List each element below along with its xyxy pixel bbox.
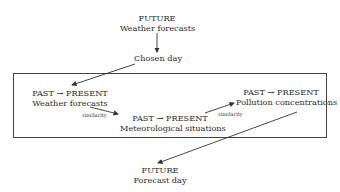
node-line1: PAST → PRESENT: [120, 113, 220, 123]
node-line1: FUTURE: [130, 165, 190, 175]
node-past-pollution-concentrations: PAST → PRESENT Pollution concentrations: [236, 87, 326, 107]
node-future-forecast-day: FUTURE Forecast day: [130, 165, 190, 185]
node-line1: FUTURE: [120, 13, 194, 23]
edge-label-similarity-1: similarity: [82, 112, 107, 118]
node-line2: Pollution concentrations: [236, 97, 326, 107]
node-future-weather-forecasts: FUTURE Weather forecasts: [120, 13, 194, 33]
node-line2: Forecast day: [130, 175, 190, 185]
node-line2: Weather forecasts: [120, 23, 194, 33]
node-line1: PAST → PRESENT: [236, 87, 326, 97]
node-line2: Meteorological situations: [120, 123, 220, 133]
node-chosen-day: Chosen day: [132, 53, 184, 63]
arrow-chosen-day-to-past-forecasts: [72, 64, 135, 85]
edge-label-similarity-2: similarity: [218, 111, 243, 117]
node-past-meteorological-situations: PAST → PRESENT Meteorological situations: [120, 113, 220, 133]
node-label: Chosen day: [132, 53, 184, 63]
node-line2: Weather forecasts: [30, 98, 110, 108]
node-past-weather-forecasts: PAST → PRESENT Weather forecasts: [30, 88, 110, 108]
node-line1: PAST → PRESENT: [30, 88, 110, 98]
